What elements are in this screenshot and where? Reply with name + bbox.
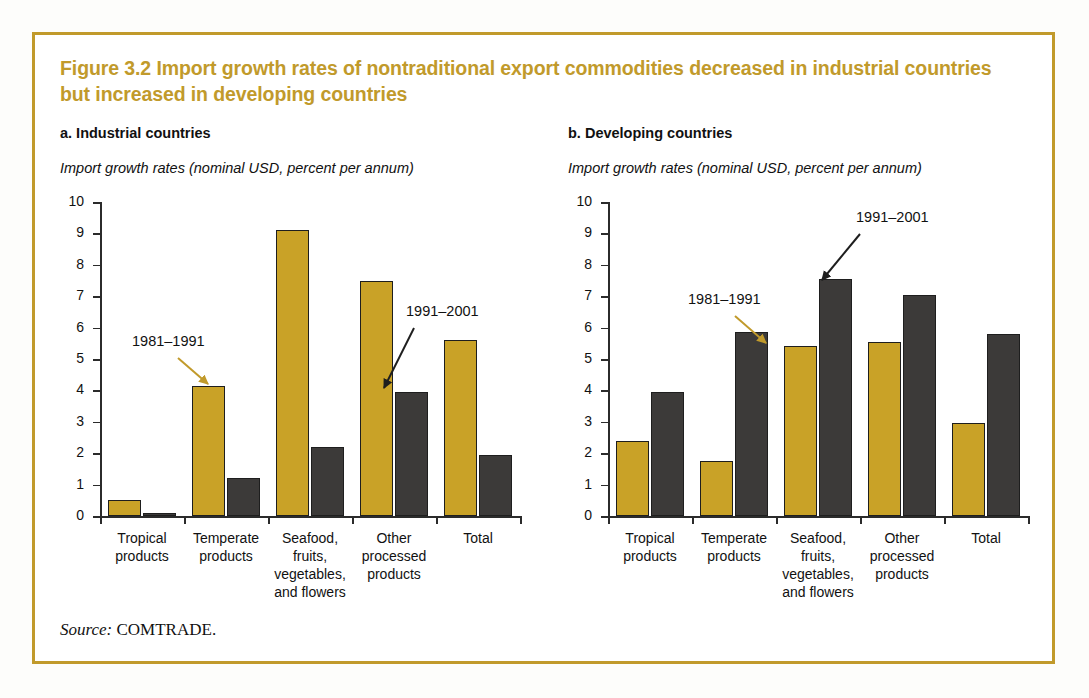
source-value: COMTRADE.: [117, 620, 217, 639]
source-note: Source: COMTRADE.: [60, 620, 216, 640]
source-label: Source:: [60, 620, 112, 639]
figure-page: Figure 3.2 Import growth rates of nontra…: [0, 0, 1089, 698]
annotation-arrow-1991-2001: [0, 0, 1089, 698]
chart-developing-countries: 012345678910TropicalproductsTemperatepro…: [0, 0, 1089, 698]
